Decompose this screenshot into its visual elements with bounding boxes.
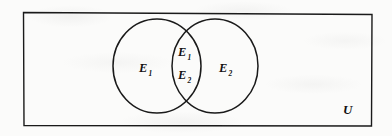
- intersection-label-upper: E 1: [177, 45, 191, 62]
- intersection-label-lower: E 2: [177, 68, 192, 85]
- set-label-right-letter: E: [218, 61, 227, 75]
- venn-canvas: E 1 E 2 E 1 E 2 U: [0, 0, 392, 136]
- set-label-left-subscript: 1: [149, 69, 153, 78]
- intersection-label-lower-letter: E: [177, 68, 186, 82]
- set-label-left-letter: E: [138, 61, 147, 75]
- set-label-right: E 2: [218, 61, 233, 78]
- set-label-left: E 1: [138, 61, 152, 78]
- set-label-right-subscript: 2: [228, 69, 233, 78]
- intersection-label-lower-subscript: 2: [187, 76, 192, 85]
- set-circle-left: [113, 19, 201, 113]
- universal-set-label: U: [343, 102, 353, 117]
- intersection-label-upper-letter: E: [177, 45, 186, 59]
- set-circle-right: [172, 19, 258, 113]
- intersection-label-upper-subscript: 1: [188, 53, 192, 62]
- venn-diagram: E 1 E 2 E 1 E 2 U: [0, 0, 392, 136]
